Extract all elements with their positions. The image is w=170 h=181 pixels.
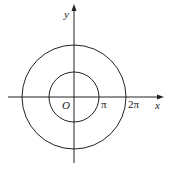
tick-label-pi: π <box>101 98 107 110</box>
y-axis-label: y <box>63 8 69 20</box>
origin-label: O <box>62 99 70 111</box>
y-axis-arrow-icon <box>72 4 77 11</box>
x-axis-label: x <box>154 99 160 111</box>
tick-label-2pi: 2π <box>128 98 140 110</box>
diagram-canvas: O π 2π x y <box>0 0 170 181</box>
